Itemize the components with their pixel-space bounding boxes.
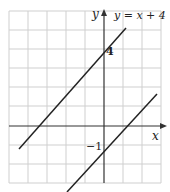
y-axis-arrow-icon — [101, 9, 107, 16]
y-axis-label: y — [91, 7, 99, 21]
grid — [9, 11, 161, 183]
coordinate-plane: y x y = x + 4 4 −1 — [0, 0, 170, 192]
intercept-label-4: 4 — [106, 45, 114, 58]
line-equation-label: y = x + 4 — [113, 9, 166, 22]
x-axis-label: x — [152, 129, 159, 143]
intercept-label-neg1: −1 — [86, 140, 102, 153]
line-y-equals-x-minus-1 — [67, 94, 157, 192]
x-axis-arrow-icon — [160, 123, 167, 129]
